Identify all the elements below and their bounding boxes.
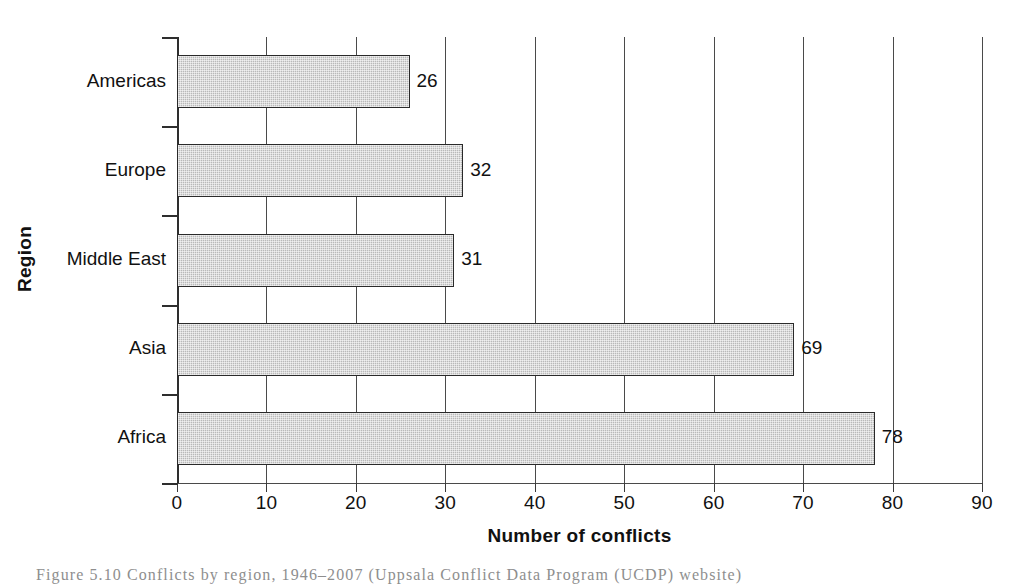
x-axis-line (177, 483, 983, 484)
bar-europe (177, 144, 463, 197)
bar-americas (177, 55, 410, 108)
bar-value-middle-east: 31 (461, 248, 482, 270)
gridline-80 (893, 37, 894, 483)
y-tick-1 (162, 126, 178, 128)
x-tick-label-0: 0 (147, 492, 207, 514)
y-tick-2 (162, 215, 178, 217)
x-tick-label-20: 20 (326, 492, 386, 514)
bar-africa (177, 412, 875, 465)
category-label-europe: Europe (0, 159, 166, 181)
bar-value-asia: 69 (801, 337, 822, 359)
x-tick-label-80: 80 (863, 492, 923, 514)
x-tick-70 (803, 483, 804, 492)
bar-middle-east (177, 234, 454, 287)
x-tick-40 (535, 483, 536, 492)
x-tick-60 (714, 483, 715, 492)
x-axis-title: Number of conflicts (177, 525, 982, 547)
gridline-90 (982, 37, 983, 483)
y-axis-title: Region (14, 209, 36, 309)
x-tick-label-40: 40 (505, 492, 565, 514)
x-tick-label-10: 10 (236, 492, 296, 514)
x-tick-label-70: 70 (773, 492, 833, 514)
y-tick-end-0 (162, 37, 178, 39)
bar-value-europe: 32 (470, 159, 491, 181)
category-label-americas: Americas (0, 70, 166, 92)
x-tick-10 (266, 483, 267, 492)
y-tick-end-1 (162, 483, 178, 485)
x-tick-label-30: 30 (415, 492, 475, 514)
x-tick-30 (445, 483, 446, 492)
y-tick-4 (162, 394, 178, 396)
y-tick-3 (162, 305, 178, 307)
figure-caption: Figure 5.10 Conflicts by region, 1946–20… (36, 566, 996, 584)
x-tick-label-50: 50 (594, 492, 654, 514)
x-tick-90 (982, 483, 983, 492)
bar-value-africa: 78 (882, 426, 903, 448)
category-label-africa: Africa (0, 426, 166, 448)
bar-value-americas: 26 (417, 70, 438, 92)
x-tick-label-90: 90 (952, 492, 1012, 514)
x-tick-20 (356, 483, 357, 492)
x-tick-label-60: 60 (684, 492, 744, 514)
category-label-asia: Asia (0, 337, 166, 359)
x-tick-50 (624, 483, 625, 492)
x-tick-80 (893, 483, 894, 492)
bar-asia (177, 323, 794, 376)
